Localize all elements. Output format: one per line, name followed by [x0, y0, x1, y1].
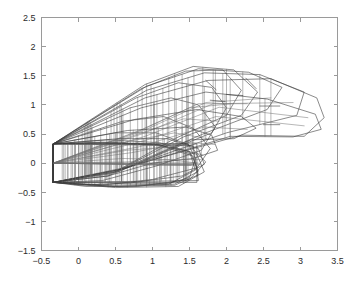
y-tick-label: 2: [30, 42, 35, 52]
x-tick-label: 3: [298, 256, 303, 266]
mesh-configuration: [53, 92, 321, 182]
tip-marker: [246, 78, 256, 88]
x-tick-label: 3.5: [331, 256, 344, 266]
y-axis-ticks: −1.5−1−0.500.511.522.5: [18, 13, 338, 256]
y-tick-label: 2.5: [23, 13, 36, 23]
mesh-configuration: [53, 110, 256, 183]
tip-marker: [206, 80, 216, 89]
y-tick-label: 0: [30, 158, 35, 168]
y-tick-label: 1.5: [23, 71, 36, 81]
y-tick-label: −1.5: [18, 246, 36, 256]
plot-canvas: −0.500.511.522.533.5 −1.5−1−0.500.511.52…: [0, 0, 354, 281]
y-tick-label: 0.5: [23, 129, 36, 139]
x-tick-label: 1.5: [183, 256, 196, 266]
x-tick-label: 2.5: [257, 256, 270, 266]
y-tick-label: −1: [25, 217, 35, 227]
x-tick-label: 0.5: [109, 256, 122, 266]
y-tick-label: 1: [30, 100, 35, 110]
x-tick-label: 1: [150, 256, 155, 266]
mesh-outline: [53, 110, 256, 183]
mesh-series-group: [53, 66, 324, 187]
x-tick-label: 2: [224, 256, 229, 266]
mesh-outline: [53, 92, 321, 182]
figure-container: −0.500.511.522.533.5 −1.5−1−0.500.511.52…: [0, 0, 354, 281]
x-tick-label: −0.5: [33, 256, 51, 266]
x-tick-label: 0: [76, 256, 81, 266]
mesh-midline: [53, 107, 308, 163]
y-tick-label: −0.5: [18, 188, 36, 198]
